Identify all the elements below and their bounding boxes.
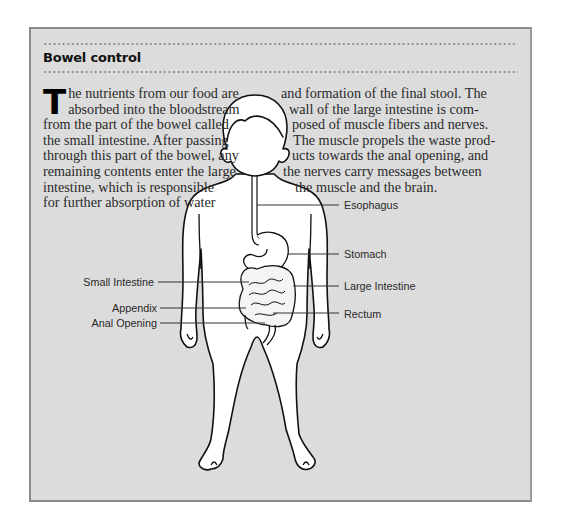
dropcap: T: [43, 88, 66, 116]
bowel-control-panel: Bowel control: [29, 27, 532, 502]
text-line: the nerves carry messages between: [281, 164, 495, 180]
text-line: intestine, which is responsible: [43, 180, 239, 196]
text-line: for further absorption of water: [43, 195, 239, 211]
text-line: wall of the large intestine is com-: [281, 102, 495, 118]
label-large-intestine: Large Intestine: [344, 280, 415, 292]
intro-paragraph-right: and formation of the final stool. The wa…: [281, 86, 495, 195]
label-appendix: Appendix: [112, 302, 157, 314]
text-line: The muscle propels the waste prod-: [281, 133, 495, 149]
text-line: ucts towards the anal opening, and: [281, 148, 495, 164]
text-line: through this part of the bowel, any: [43, 148, 239, 164]
text-line: absorbed into the bloodstream: [43, 102, 239, 118]
text-line: posed of muscle fibers and nerves.: [281, 117, 495, 133]
large-intestine-icon: [239, 266, 295, 327]
text-line: remaining contents enter the large: [43, 164, 239, 180]
label-esophagus: Esophagus: [344, 199, 398, 211]
label-stomach: Stomach: [344, 248, 387, 260]
intro-paragraph-left: T he nutrients from our food are absorbe…: [43, 86, 239, 211]
text-line: the muscle and the brain.: [281, 180, 495, 196]
text-line: from the part of the bowel called: [43, 117, 239, 133]
text-line: he nutrients from our food are: [43, 86, 239, 102]
text-line: the small intestine. After passing: [43, 133, 239, 149]
label-rectum: Rectum: [344, 308, 381, 320]
text-line: and formation of the final stool. The: [281, 86, 495, 102]
label-anal-opening: Anal Opening: [92, 317, 157, 329]
label-small-intestine: Small Intestine: [83, 276, 154, 288]
